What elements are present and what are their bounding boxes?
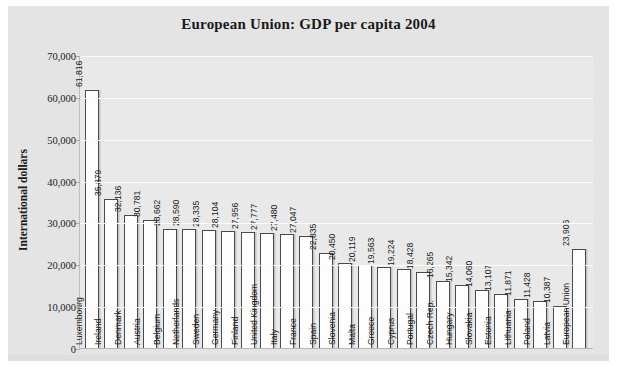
gridline — [80, 140, 593, 141]
bar-value-label: 19,224 — [385, 253, 398, 266]
y-axis-tick-label: 70,000 — [47, 51, 76, 62]
bar-category-label: Hungary — [443, 332, 456, 345]
y-axis-tick-label: 20,000 — [47, 260, 76, 271]
bar-category-label: Slovenia — [326, 332, 339, 345]
bar-category-label: Malta — [346, 332, 359, 345]
gridline — [80, 98, 593, 99]
bar-category-label: Slovakia — [463, 332, 476, 345]
bar-category-label: Denmark — [112, 332, 125, 345]
bar-value-label: 11,871 — [502, 283, 515, 296]
bar-slot[interactable]: 22,835Spain — [317, 56, 337, 349]
bar-category-label: Estonia — [482, 332, 495, 345]
y-axis-tick-mark — [76, 140, 80, 141]
bar-category-label: Greece — [365, 332, 378, 345]
bar-value-label: 20,450 — [326, 247, 339, 260]
bar-value-label: 35,879 — [92, 183, 105, 196]
bar-slot[interactable]: 19,224Cyprus — [395, 56, 415, 349]
bar-value-label: 14,060 — [463, 274, 476, 287]
y-axis-tick-mark — [76, 56, 80, 57]
bar-category-label: Lithuania — [502, 332, 515, 345]
bar-category-label: United Kingdom — [248, 332, 261, 345]
bar-category-label: Ireland — [92, 332, 105, 345]
bar-category-label: Portugal — [404, 332, 417, 345]
y-axis-tick-label: 50,000 — [47, 134, 76, 145]
bar-slot[interactable]: 27,047France — [297, 56, 317, 349]
y-axis-tick-mark — [76, 307, 80, 308]
bar-value-label: 19,563 — [365, 251, 378, 264]
bar-slot[interactable]: 11,428Poland — [531, 56, 551, 349]
bar-value-label: 15,342 — [443, 269, 456, 282]
y-axis-title-label: International dollars — [17, 149, 29, 251]
bar-category-label: Poland — [521, 332, 534, 345]
bar-value-label: 27,047 — [287, 220, 300, 233]
bar-slot[interactable]: 61,816Luxembourg — [83, 56, 103, 349]
gridline — [80, 182, 593, 183]
bar-category-label: Spain — [307, 332, 320, 345]
bar-slot[interactable]: 15,342Hungary — [453, 56, 473, 349]
bar-category-label: Sweden — [190, 332, 203, 345]
bar-value-label: 13,107 — [482, 278, 495, 291]
bar-value-label: 32,136 — [112, 199, 125, 212]
bar-value-label: 30,781 — [131, 204, 144, 217]
bar-category-label: Finland — [229, 332, 242, 345]
gridline — [80, 265, 593, 266]
y-axis-tick-label: 30,000 — [47, 218, 76, 229]
plot-area: 61,816Luxembourg35,879Ireland32,136Denma… — [79, 56, 593, 349]
bar-slot[interactable]: 20,450Slovenia — [336, 56, 356, 349]
y-axis-tick-mark — [76, 223, 80, 224]
gridline — [80, 307, 593, 308]
bar-category-label: Austria — [131, 332, 144, 345]
y-axis-tick-label: 10,000 — [47, 302, 76, 313]
bar-value-label: 10,387 — [541, 290, 554, 303]
bar-slot[interactable]: 13,107Estonia — [492, 56, 512, 349]
bar-value-label: 20,119 — [346, 249, 359, 262]
bar-slot[interactable]: 27,480Italy — [278, 56, 298, 349]
bar-category-label: Latvia — [541, 332, 554, 345]
gridline — [80, 223, 593, 224]
bar-value-label: 28,104 — [209, 215, 222, 228]
bottom-strip — [8, 355, 609, 361]
bar-slot[interactable]: 11,871Lithuania — [512, 56, 532, 349]
bar-category-label: Czech Rep. — [424, 332, 437, 345]
bar-slot[interactable]: 19,563Greece — [375, 56, 395, 349]
y-axis-tick-mark — [76, 98, 80, 99]
y-axis-tick-mark — [76, 265, 80, 266]
bar-value-label: 16,265 — [424, 265, 437, 278]
bar-category-label: Belgium — [151, 332, 164, 345]
y-axis-tick-mark — [76, 349, 80, 350]
bar-slot[interactable]: 14,060Slovakia — [473, 56, 493, 349]
bar-category-label: France — [287, 332, 300, 345]
bar-slot[interactable]: 23,906European Union — [570, 56, 590, 349]
bar[interactable] — [572, 249, 586, 349]
y-axis-tick-label: 60,000 — [47, 92, 76, 103]
bar-value-label: 28,335 — [190, 214, 203, 227]
chart-screenshot: European Union: GDP per capita 2004 Inte… — [0, 0, 617, 375]
bar-category-label: European Union — [560, 332, 573, 345]
bar-category-label: Germany — [209, 332, 222, 345]
bar-category-label: Cyprus — [385, 332, 398, 345]
bar-slot[interactable]: 16,265Czech Rep. — [434, 56, 454, 349]
bar-category-label: Italy — [268, 332, 281, 345]
bar[interactable] — [85, 90, 99, 349]
chart-title-band: European Union: GDP per capita 2004 — [8, 6, 609, 43]
bar-value-label: 61,816 — [73, 74, 86, 87]
bar-series: 61,816Luxembourg35,879Ireland32,136Denma… — [80, 56, 593, 349]
y-axis-tick-mark — [76, 182, 80, 183]
bar-value-label: 22,835 — [307, 237, 320, 250]
y-axis-tick-label: 40,000 — [47, 176, 76, 187]
y-axis-tick-labels: 010,00020,00030,00040,00050,00060,00070,… — [34, 60, 78, 360]
bar-slot[interactable]: 27,777United Kingdom — [258, 56, 278, 349]
y-axis-title: International dollars — [12, 45, 34, 355]
gridline — [80, 56, 593, 57]
bar-value-label: 11,428 — [521, 285, 534, 298]
bar-slot[interactable]: 20,119Malta — [356, 56, 376, 349]
bar-category-label: Netherlands — [170, 332, 183, 345]
chart-title: European Union: GDP per capita 2004 — [181, 16, 435, 33]
bar-value-label: 23,906 — [560, 233, 573, 246]
bar-value-label: 18,428 — [404, 256, 417, 269]
x-axis-baseline — [80, 348, 593, 349]
bar-value-label: 27,480 — [268, 218, 281, 231]
bar-category-label: Luxembourg — [73, 332, 86, 345]
